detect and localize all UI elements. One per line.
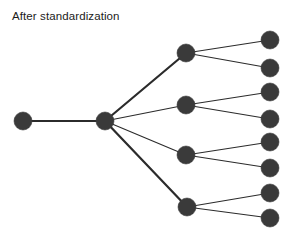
tree-node <box>177 146 195 164</box>
tree-node <box>177 96 195 114</box>
tree-node <box>261 209 279 227</box>
tree-node <box>261 110 279 128</box>
tree-edge <box>186 92 270 105</box>
tree-node <box>261 159 279 177</box>
tree-edge <box>186 105 270 119</box>
tree-edge <box>187 207 270 218</box>
tree-edge <box>105 121 186 155</box>
edge-layer <box>23 40 270 218</box>
tree-node <box>96 112 114 130</box>
tree-node <box>261 133 279 151</box>
tree-edge <box>187 193 270 207</box>
tree-node <box>261 83 279 101</box>
tree-edge <box>186 142 270 155</box>
tree-edge <box>105 121 187 207</box>
tree-edge <box>105 53 186 121</box>
tree-edge <box>105 105 186 121</box>
tree-node <box>14 112 32 130</box>
tree-node <box>261 59 279 77</box>
tree-diagram <box>0 0 297 242</box>
tree-node <box>177 44 195 62</box>
tree-edge <box>186 155 270 168</box>
tree-node <box>178 198 196 216</box>
tree-edge <box>186 40 270 53</box>
tree-node <box>261 31 279 49</box>
tree-edge <box>186 53 270 68</box>
node-layer <box>14 31 279 227</box>
figure-container: After standardization <box>0 0 297 242</box>
tree-node <box>261 184 279 202</box>
